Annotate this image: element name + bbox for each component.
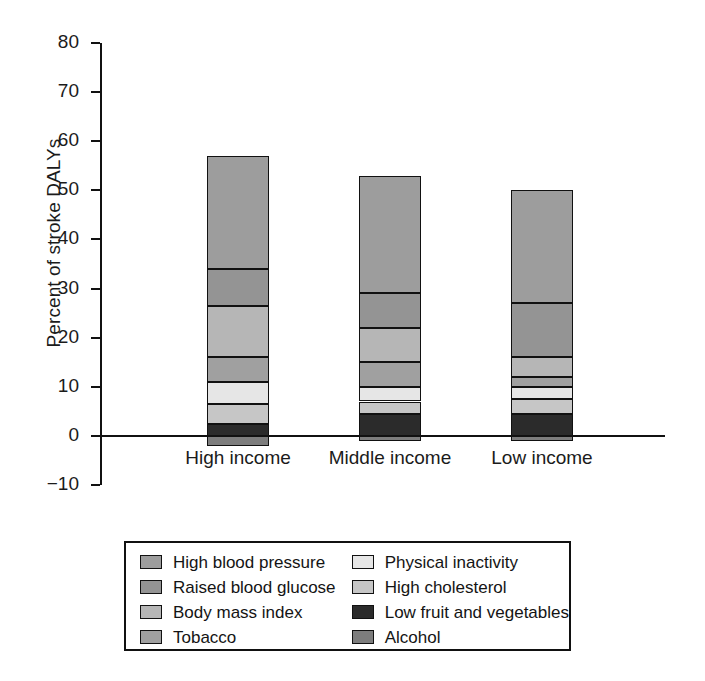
y-tick-label-50: 50	[58, 179, 79, 198]
segment-alcohol[interactable]	[207, 436, 269, 446]
y-tick-70: 70	[91, 91, 100, 93]
segment-low-fruit-and-vegetables[interactable]	[207, 424, 269, 436]
bar-middle-income[interactable]	[359, 43, 421, 485]
legend-swatch-icon	[352, 580, 374, 594]
legend-item-high-cholesterol[interactable]: High cholesterol	[352, 575, 569, 599]
legend-column-left: High blood pressureRaised blood glucoseB…	[126, 550, 344, 649]
segment-tobacco[interactable]	[511, 377, 573, 387]
y-tick-label--10: −10	[47, 474, 79, 493]
legend-label: Raised blood glucose	[173, 579, 336, 596]
segment-high-blood-pressure[interactable]	[359, 176, 421, 294]
y-tick-label-10: 10	[58, 376, 79, 395]
segment-tobacco[interactable]	[207, 357, 269, 382]
y-tick-label-30: 30	[58, 278, 79, 297]
legend-swatch-icon	[140, 555, 162, 569]
y-tick-50: 50	[91, 189, 100, 191]
segment-high-blood-pressure[interactable]	[511, 190, 573, 303]
legend-label: Physical inactivity	[385, 554, 518, 571]
segment-tobacco[interactable]	[359, 362, 421, 387]
chart-legend: High blood pressureRaised blood glucoseB…	[124, 541, 571, 651]
segment-high-blood-pressure[interactable]	[207, 156, 269, 269]
legend-item-body-mass-index[interactable]: Body mass index	[140, 600, 344, 624]
legend-item-physical-inactivity[interactable]: Physical inactivity	[352, 550, 569, 574]
y-tick-60: 60	[91, 140, 100, 142]
segment-low-fruit-and-vegetables[interactable]	[511, 414, 573, 436]
segment-alcohol[interactable]	[359, 436, 421, 441]
y-tick-label-60: 60	[58, 130, 79, 149]
y-tick-30: 30	[91, 288, 100, 290]
legend-item-low-fruit-and-vegetables[interactable]: Low fruit and vegetables	[352, 600, 569, 624]
segment-body-mass-index[interactable]	[207, 306, 269, 358]
y-tick-40: 40	[91, 238, 100, 240]
y-tick-label-0: 0	[68, 425, 79, 444]
y-tick--10: −10	[91, 484, 100, 486]
segment-high-cholesterol[interactable]	[359, 402, 421, 414]
legend-item-tobacco[interactable]: Tobacco	[140, 625, 344, 649]
figure-caption	[28, 666, 448, 681]
bar-high-income[interactable]	[207, 43, 269, 485]
segment-body-mass-index[interactable]	[359, 328, 421, 362]
y-tick-label-70: 70	[58, 81, 79, 100]
y-tick-label-40: 40	[58, 229, 79, 248]
segment-raised-blood-glucose[interactable]	[207, 269, 269, 306]
y-axis-spine	[100, 43, 102, 485]
segment-raised-blood-glucose[interactable]	[359, 293, 421, 327]
legend-label: High cholesterol	[385, 579, 507, 596]
y-tick-10: 10	[91, 386, 100, 388]
segment-low-fruit-and-vegetables[interactable]	[359, 414, 421, 436]
category-label-high-income: High income	[185, 447, 291, 469]
segment-high-cholesterol[interactable]	[511, 399, 573, 414]
y-tick-0: 0	[91, 435, 100, 437]
legend-item-raised-blood-glucose[interactable]: Raised blood glucose	[140, 575, 344, 599]
y-tick-20: 20	[91, 337, 100, 339]
legend-swatch-icon	[352, 630, 374, 644]
legend-item-high-blood-pressure[interactable]: High blood pressure	[140, 550, 344, 574]
legend-swatch-icon	[140, 580, 162, 594]
legend-column-right: Physical inactivityHigh cholesterolLow f…	[344, 550, 569, 649]
legend-label: High blood pressure	[173, 554, 325, 571]
legend-label: Body mass index	[173, 604, 302, 621]
category-label-middle-income: Middle income	[329, 447, 452, 469]
legend-label: Low fruit and vegetables	[385, 604, 569, 621]
category-label-low-income: Low income	[491, 447, 592, 469]
y-tick-80: 80	[91, 42, 100, 44]
segment-high-cholesterol[interactable]	[207, 404, 269, 424]
bar-low-income[interactable]	[511, 43, 573, 485]
segment-physical-inactivity[interactable]	[511, 387, 573, 399]
segment-alcohol[interactable]	[511, 436, 573, 441]
legend-swatch-icon	[352, 605, 374, 619]
y-tick-label-20: 20	[58, 327, 79, 346]
legend-label: Tobacco	[173, 629, 236, 646]
segment-raised-blood-glucose[interactable]	[511, 303, 573, 357]
segment-physical-inactivity[interactable]	[207, 382, 269, 404]
legend-swatch-icon	[140, 630, 162, 644]
legend-item-alcohol[interactable]: Alcohol	[352, 625, 569, 649]
y-tick-label-80: 80	[58, 32, 79, 51]
legend-label: Alcohol	[385, 629, 441, 646]
legend-swatch-icon	[140, 605, 162, 619]
plot-area: 80706050403020100−10 High incomeMiddle i…	[100, 43, 665, 485]
segment-body-mass-index[interactable]	[511, 357, 573, 377]
segment-physical-inactivity[interactable]	[359, 387, 421, 402]
stroke-dalys-chart-figure: Percent of stroke DALYs 8070605040302010…	[0, 0, 705, 681]
legend-swatch-icon	[352, 555, 374, 569]
